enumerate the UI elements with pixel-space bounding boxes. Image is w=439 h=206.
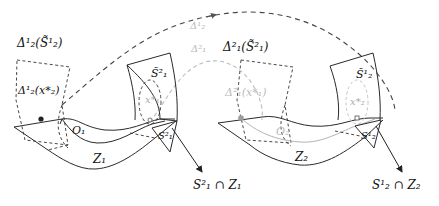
outer-arc-label: Δ¹₂: [190, 20, 205, 31]
left-surface-label: Z₁: [93, 152, 106, 166]
label-layer: Δ¹₂(S̃¹₂) Δ¹₂(x*₂) O₁ Z₁ S̃²₁ x*₁ S²₁ S²…: [0, 0, 439, 206]
right-small-patch-label: S¹₂: [361, 130, 376, 141]
left-point-label: x*₁: [145, 94, 160, 105]
right-point-label: x*₂: [350, 96, 365, 107]
left-curve-label: O₁: [72, 124, 85, 137]
inner-arc-label: Δ²₁: [191, 43, 206, 54]
right-curve-label: O₂: [276, 125, 289, 138]
left-small-patch-label: S²₁: [158, 130, 173, 141]
right-tile-label: S̃¹₂: [356, 68, 372, 81]
left-box-inner-label: Δ¹₂(x*₂): [18, 84, 59, 97]
left-arrow-label: S²₁ ∩ Z₁: [193, 178, 242, 192]
right-box-inner-label: Δ²₁(x*₁): [225, 86, 266, 99]
left-box-top-label: Δ¹₂(S̃¹₂): [17, 36, 63, 50]
right-arrow-label: S¹₂ ∩ Z₂: [372, 178, 421, 192]
right-box-top-label: Δ²₁(S̃²₁): [223, 40, 269, 54]
right-surface-label: Z₂: [295, 150, 308, 164]
left-tile-label: S̃²₁: [151, 67, 167, 80]
